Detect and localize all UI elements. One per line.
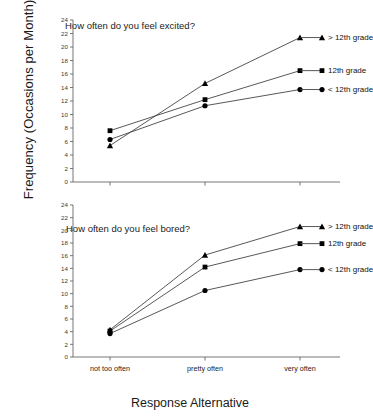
svg-text:20: 20 [61, 43, 68, 50]
svg-text:12: 12 [61, 97, 68, 104]
plot-area-excited: 024681012141618202224 [0, 8, 359, 193]
svg-text:14: 14 [61, 265, 68, 272]
chart-panel-bored: How often do you feel bored? 02468101214… [0, 197, 359, 387]
svg-text:24: 24 [61, 201, 68, 208]
svg-text:not too often: not too often [90, 364, 130, 373]
svg-text:16: 16 [61, 252, 68, 259]
plot-area-bored: 024681012141618202224not too oftenpretty… [0, 197, 359, 387]
legend-label-triangle: > 12th grade [328, 222, 373, 231]
svg-text:8: 8 [65, 303, 69, 310]
svg-text:pretty often: pretty often [187, 364, 223, 373]
svg-text:14: 14 [61, 84, 68, 91]
svg-text:10: 10 [61, 290, 68, 297]
svg-text:18: 18 [61, 239, 68, 246]
svg-text:0: 0 [65, 353, 69, 360]
svg-text:0: 0 [65, 178, 69, 185]
svg-text:very often: very often [284, 364, 316, 373]
legend-label-triangle: > 12th grade [328, 33, 373, 42]
svg-text:6: 6 [65, 138, 69, 145]
svg-text:8: 8 [65, 124, 69, 131]
svg-text:20: 20 [61, 227, 68, 234]
legend-label-square: 12th grade [328, 239, 366, 248]
svg-text:18: 18 [61, 57, 68, 64]
svg-text:16: 16 [61, 70, 68, 77]
svg-text:4: 4 [65, 151, 69, 158]
svg-text:2: 2 [65, 165, 69, 172]
legend-label-circle: < 12th grade [328, 85, 373, 94]
svg-text:12: 12 [61, 277, 68, 284]
svg-text:10: 10 [61, 111, 68, 118]
svg-text:4: 4 [65, 328, 69, 335]
svg-text:6: 6 [65, 315, 69, 322]
svg-text:2: 2 [65, 341, 69, 348]
x-axis-title: Response Alternative [55, 396, 325, 410]
legend-label-square: 12th grade [328, 66, 366, 75]
svg-text:24: 24 [61, 16, 68, 23]
svg-text:22: 22 [61, 214, 68, 221]
legend-label-circle: < 12th grade [328, 265, 373, 274]
chart-panel-excited: How often do you feel excited? 024681012… [0, 8, 359, 193]
svg-text:22: 22 [61, 30, 68, 37]
